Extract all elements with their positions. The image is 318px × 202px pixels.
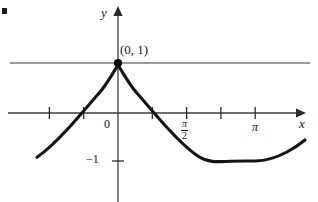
half-pi-numerator: π: [181, 119, 188, 130]
y-axis-label: y: [101, 6, 107, 19]
x-tick-label-pi: π: [252, 121, 258, 133]
half-pi-denominator: 2: [181, 131, 188, 142]
origin-label: 0: [104, 118, 110, 130]
plot-canvas: [0, 0, 318, 202]
x-tick-label-half-pi: π 2: [181, 119, 188, 141]
x-axis-label: x: [299, 117, 305, 130]
y-axis-arrowhead: [113, 6, 122, 16]
maximum-point-label: (0, 1): [120, 43, 148, 56]
y-tick-label-minus-one: −1: [86, 153, 99, 165]
maximum-point-marker: [114, 59, 122, 67]
cosine-graph-figure: y x (0, 1) 0 −1 π 2 π: [0, 0, 318, 202]
half-pi-fraction: π 2: [181, 119, 188, 141]
